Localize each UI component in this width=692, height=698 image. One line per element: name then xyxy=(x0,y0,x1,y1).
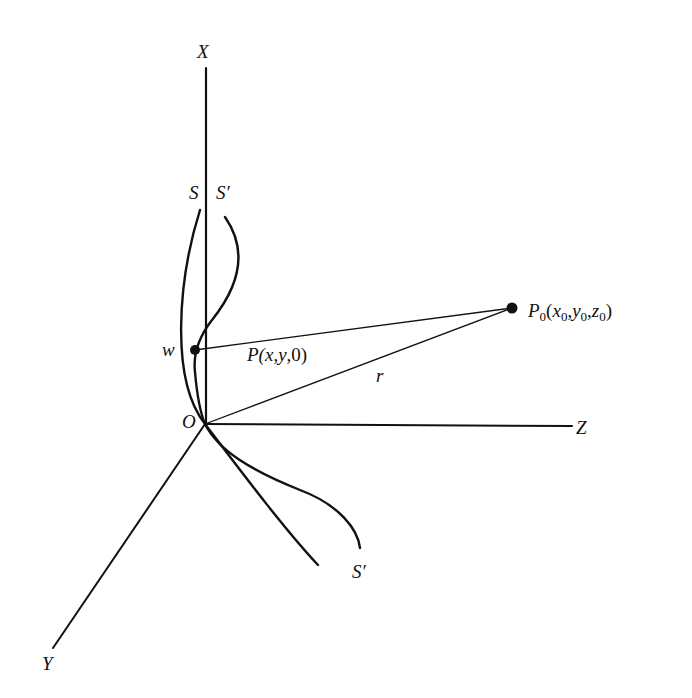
point-p-label-rest: ,0) xyxy=(287,344,308,365)
point-p-label: P(x,y,0) xyxy=(247,345,307,364)
y-axis-label: Y xyxy=(42,654,53,673)
point-p-label-y: y xyxy=(278,344,286,365)
x-axis-label: X xyxy=(197,42,209,61)
coordinate-diagram xyxy=(0,0,692,698)
point-w-marker xyxy=(190,345,200,355)
point-p-label-main: P(x xyxy=(247,344,273,365)
z-axis xyxy=(205,424,572,426)
origin-label: O xyxy=(182,412,196,431)
point-p0-marker xyxy=(507,303,518,314)
segment-w-p0 xyxy=(195,308,512,350)
curve-s-prime xyxy=(195,217,360,548)
point-p0-letter: P xyxy=(528,300,540,321)
segment-r-label: r xyxy=(376,366,383,385)
point-p0-label: P0(x0,y0,z0) xyxy=(528,301,612,323)
curve-s-prime-label-top: S′ xyxy=(216,183,230,202)
z-axis-label: Z xyxy=(576,418,587,437)
segment-r xyxy=(205,308,512,424)
curve-s xyxy=(181,210,318,565)
curve-s-label: S xyxy=(189,183,199,202)
y-axis xyxy=(53,424,205,648)
point-w-label: w xyxy=(162,340,175,359)
curve-s-prime-label-bottom: S′ xyxy=(352,562,366,581)
